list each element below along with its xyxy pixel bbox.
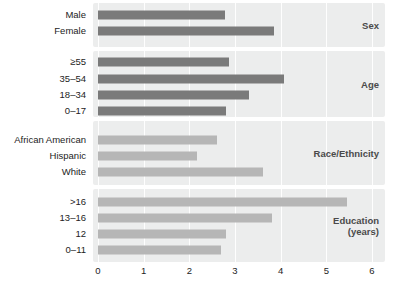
x-tick-label: 5 [324,265,329,276]
panel-title-age: Age [361,79,379,90]
category-label: 0–11 [66,245,86,255]
category-label: Female [54,26,86,36]
category-label: Hispanic [50,151,86,161]
bar [98,168,263,177]
category-label: 18–34 [60,90,86,100]
category-label: 13–16 [60,213,86,223]
value-axis: 0123456 [93,263,385,283]
panel-title-race-ethnicity: Race/Ethnicity [314,148,379,159]
category-label: White [62,167,86,177]
category-label: 35–54 [60,74,86,84]
bar [98,152,197,161]
bar [98,11,225,20]
gridline [326,3,327,47]
bar [98,246,221,255]
gridline [235,51,236,117]
x-tick-label: 3 [232,265,237,276]
gridline [235,3,236,47]
bar [98,27,274,36]
bar [98,107,226,116]
plot-area: Sex Age Race/Ethnicity Education (years) [93,3,385,262]
gridline [281,51,282,117]
category-label: African American [14,135,86,145]
horizontal-bar-chart: MaleFemale≥5535–5418–340–17African Ameri… [0,0,401,289]
category-label: ≥55 [70,57,86,67]
category-axis-labels: MaleFemale≥5535–5418–340–17African Ameri… [0,0,90,262]
panel-title-education-years: Education (years) [333,215,379,237]
gridline [326,51,327,117]
x-tick-label: 1 [141,265,146,276]
bar [98,58,229,67]
x-tick-label: 6 [369,265,374,276]
gridline [281,121,282,185]
x-tick-label: 4 [278,265,283,276]
category-label: Male [65,10,86,20]
category-label: 0–17 [65,106,86,116]
gridline [281,3,282,47]
panel-title-sex: Sex [362,20,379,31]
bar [98,75,284,84]
bar [98,198,347,207]
x-tick-label: 2 [187,265,192,276]
bar [98,91,249,100]
bar [98,230,226,239]
category-label: >16 [70,197,86,207]
bar [98,136,217,145]
category-label: 12 [75,229,86,239]
x-tick-label: 0 [95,265,100,276]
bar [98,214,272,223]
